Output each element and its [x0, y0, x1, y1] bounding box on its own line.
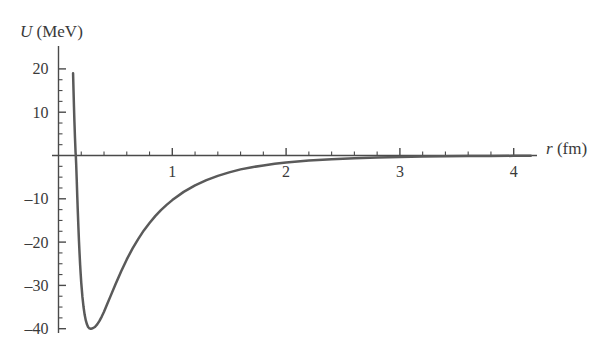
tick-marks — [59, 69, 514, 329]
x-tick-label: 2 — [282, 163, 290, 180]
x-tick-label: 3 — [396, 163, 404, 180]
y-tick-label: –10 — [24, 190, 49, 207]
y-tick-label: –30 — [24, 277, 49, 294]
y-tick-label: 10 — [33, 104, 49, 121]
potential-curve — [73, 73, 531, 328]
y-tick-label: –20 — [24, 234, 49, 251]
potential-energy-chart: 1234 2010–10–20–30–40 U (MeV) r (fm) — [0, 0, 609, 338]
x-tick-label: 1 — [168, 163, 176, 180]
x-tick-label: 4 — [510, 163, 518, 180]
figure-container: 1234 2010–10–20–30–40 U (MeV) r (fm) — [0, 0, 609, 338]
y-tick-label: –40 — [24, 320, 49, 337]
y-tick-label: 20 — [33, 60, 49, 77]
x-axis-label: r (fm) — [546, 139, 587, 158]
y-axis-label: U (MeV) — [20, 22, 83, 41]
y-tick-labels: 2010–10–20–30–40 — [24, 60, 49, 337]
x-tick-labels: 1234 — [168, 163, 517, 180]
